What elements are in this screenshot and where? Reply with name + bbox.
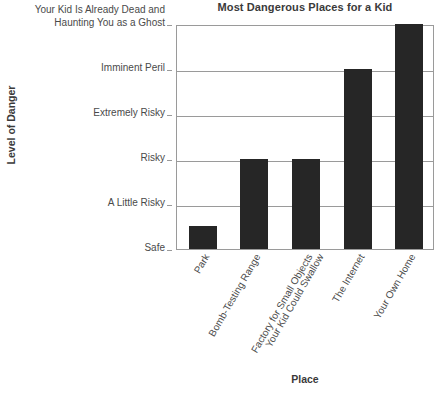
plot-area: [176, 25, 434, 250]
y-axis-tick-mark: [167, 115, 172, 116]
bar[interactable]: [240, 159, 268, 249]
y-axis-tick-mark: [167, 250, 172, 251]
y-axis-tick-label-line: Your Kid Is Already Dead and: [35, 3, 165, 16]
y-axis-tick-label-line: Safe: [144, 241, 165, 254]
y-axis-tick-label-line: Extremely Risky: [93, 106, 165, 119]
bar[interactable]: [292, 159, 320, 249]
y-axis-tick-label-line: Haunting You as a Ghost: [35, 16, 165, 29]
x-axis-tick-label-line: Your Kid Could Swallow: [263, 252, 326, 350]
y-axis-tick-label-line: Risky: [141, 151, 165, 164]
bars-layer: [177, 26, 433, 249]
x-axis-tick-label-line: Bomb-Testing Range: [207, 252, 264, 339]
chart-title: Most Dangerous Places for a Kid: [176, 1, 434, 13]
y-axis-tick-label-line: Imminent Peril: [101, 61, 165, 74]
bar-slot: [383, 26, 435, 249]
y-axis-tick-label-line: A Little Risky: [108, 196, 165, 209]
y-axis-tick-label: A Little Risky: [108, 196, 165, 209]
y-axis-tick-label: Risky: [141, 151, 165, 164]
y-axis-tick-label: Extremely Risky: [93, 106, 165, 119]
y-axis-tick-label: Imminent Peril: [101, 61, 165, 74]
bar[interactable]: [344, 69, 372, 249]
y-axis-tick-mark: [167, 70, 172, 71]
bar[interactable]: [189, 226, 217, 249]
bar-slot: [280, 26, 332, 249]
x-axis-tick-label-line: Factory for Small Objects: [249, 252, 316, 355]
x-axis-tick-label-line: Your Own Home: [372, 252, 419, 321]
x-axis-tick-labels: ParkBomb-Testing RangeFactory for Small …: [176, 252, 434, 370]
bar-slot: [229, 26, 281, 249]
y-axis-tick-label: Safe: [144, 241, 165, 254]
y-axis-tick-mark: [167, 25, 172, 26]
y-axis-tick-labels: SafeA Little RiskyRiskyExtremely RiskyIm…: [0, 0, 176, 393]
x-axis-title: Place: [176, 373, 434, 385]
bar-slot: [177, 26, 229, 249]
bar-slot: [332, 26, 384, 249]
y-axis-tick-mark: [167, 160, 172, 161]
y-axis-tick-label: Your Kid Is Already Dead andHaunting You…: [35, 3, 165, 29]
bar[interactable]: [395, 24, 423, 249]
y-axis-tick-mark: [167, 205, 172, 206]
x-axis-tick-label-line: The Internet: [330, 252, 367, 305]
x-axis-tick-label-line: Park: [192, 252, 213, 276]
